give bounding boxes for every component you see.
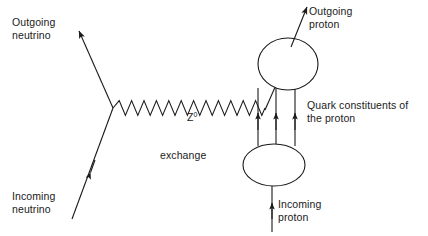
label-incoming-proton: Incoming proton — [278, 198, 321, 223]
outgoing-proton-blob — [258, 38, 318, 90]
feynman-diagram: Outgoing neutrino Incoming neutrino Z0 e… — [0, 0, 428, 236]
z-boson-exchange-word: exchange — [160, 149, 206, 162]
label-outgoing-proton: Outgoing proton — [309, 5, 352, 30]
label-z-boson-exchange: Z0 exchange — [160, 86, 206, 186]
label-quark-constituents: Quark constituents of the proton — [307, 99, 408, 124]
label-incoming-neutrino: Incoming neutrino — [12, 190, 55, 215]
hadron-vertex-connector — [265, 85, 276, 110]
outgoing-neutrino-line — [79, 31, 113, 108]
label-outgoing-neutrino: Outgoing neutrino — [12, 16, 55, 41]
z-boson-charge-superscript: 0 — [193, 111, 197, 118]
z-boson-symbol: Z0 — [178, 111, 206, 124]
incoming-proton-blob — [243, 144, 305, 186]
incoming-neutrino-line — [72, 108, 113, 219]
